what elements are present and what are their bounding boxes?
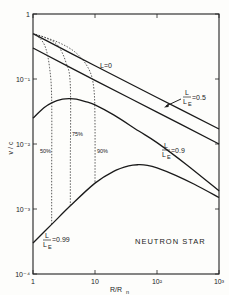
x-axis-title-sub: n: [126, 289, 129, 295]
x-axis-title: R/R n: [110, 286, 129, 295]
y-tick-label: 10⁻²: [16, 141, 31, 148]
y-tick-label: 1: [26, 11, 30, 18]
label-l099-numerator: L: [45, 232, 49, 239]
x-tick-label: 10: [91, 278, 99, 285]
label-l05-value: =0.5: [192, 94, 206, 101]
label-50pct: 50%: [40, 148, 51, 154]
x-tick-label: 10³: [214, 278, 225, 285]
dotted-curve-50pct: [33, 34, 52, 225]
x-tick-label: 1: [31, 278, 35, 285]
label-l09-denominator: L: [162, 151, 166, 158]
plot-frame: [33, 14, 219, 274]
series-l-0: [33, 34, 219, 129]
label-l09-value: =0.9: [171, 147, 185, 154]
label-90pct: 90%: [97, 148, 108, 154]
label-l05-sub: E: [188, 101, 192, 107]
x-axis-title-main: R/R: [110, 286, 122, 293]
label-75pct: 75%: [72, 131, 83, 137]
curves: [33, 34, 219, 243]
y-tick-label: 10⁻⁴: [15, 271, 30, 278]
label-l05-denominator: L: [183, 98, 187, 105]
y-axis-title: v / c: [7, 141, 14, 154]
dotted-curve-75pct: [33, 34, 71, 206]
dotted-curves: [33, 34, 95, 225]
axes: [33, 14, 219, 274]
label-l099-sub: E: [48, 244, 52, 250]
label-l05-numerator: L: [185, 89, 189, 96]
chart: 11010²10³110⁻¹10⁻²10⁻³10⁻⁴ L=0 L L E =0.…: [0, 0, 229, 295]
arrow-head-icon: [164, 103, 169, 108]
series-l-l-e-0-99: [33, 165, 219, 243]
label-l09-numerator: L: [164, 142, 168, 149]
y-tick-label: 10⁻³: [16, 206, 31, 213]
label-l099: L L E =0.99: [43, 232, 70, 250]
label-l0: L=0: [100, 62, 112, 69]
label-l099-value: =0.99: [52, 236, 70, 243]
series-l-l-e-0-9: [33, 99, 219, 191]
label-l099-denominator: L: [43, 241, 47, 248]
label-l09-sub: E: [167, 154, 171, 160]
label-neutron-star: NEUTRON STAR: [135, 237, 206, 246]
label-l09: L L E =0.9: [162, 142, 185, 160]
y-tick-label: 10⁻¹: [16, 76, 31, 83]
x-tick-label: 10²: [152, 278, 163, 285]
